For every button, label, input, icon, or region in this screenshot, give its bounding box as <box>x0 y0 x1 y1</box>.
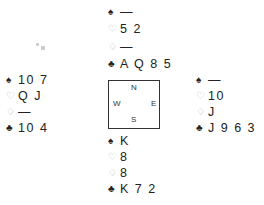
north-clubs: ♣A Q 8 5 <box>108 56 172 74</box>
diamond-icon: ♢ <box>6 104 18 120</box>
compass-east: E <box>151 99 156 108</box>
compass-south: S <box>131 115 136 124</box>
spade-icon: ♠ <box>6 72 18 88</box>
east-spades: ♠— <box>196 72 256 88</box>
south-hand: ♠K ♡8 ♢8 ♣K 7 2 <box>108 133 157 197</box>
heart-icon: ♡ <box>108 149 120 165</box>
north-hand: ♠— ♡5 2 ♢— ♣A Q 8 5 <box>108 3 172 73</box>
west-hearts: ♡Q J <box>6 88 48 104</box>
club-icon: ♣ <box>6 120 18 136</box>
heart-icon: ♡ <box>108 21 120 37</box>
south-spades: ♠K <box>108 133 157 149</box>
east-diamonds: ♢J <box>196 104 256 120</box>
heart-icon: ♡ <box>196 88 208 104</box>
spade-icon: ♠ <box>108 4 120 20</box>
diamond-icon: ♢ <box>196 104 208 120</box>
compass-box: N W E S <box>108 80 160 129</box>
west-diamonds: ♢— <box>6 104 48 120</box>
east-hearts: ♡10 <box>196 88 256 104</box>
heart-icon: ♡ <box>6 88 18 104</box>
artifact-smudge <box>36 43 50 51</box>
spade-icon: ♠ <box>108 133 120 149</box>
club-icon: ♣ <box>196 120 208 136</box>
south-hearts: ♡8 <box>108 149 157 165</box>
compass-west: W <box>113 99 121 108</box>
club-icon: ♣ <box>108 181 120 197</box>
south-diamonds: ♢8 <box>108 165 157 181</box>
west-hand: ♠10 7 ♡Q J ♢— ♣10 4 <box>6 72 48 136</box>
compass-north: N <box>131 83 137 92</box>
west-spades: ♠10 7 <box>6 72 48 88</box>
north-diamonds: ♢— <box>108 38 172 56</box>
club-icon: ♣ <box>108 56 120 72</box>
spade-icon: ♠ <box>196 72 208 88</box>
east-hand: ♠— ♡10 ♢J ♣J 9 6 3 <box>196 72 256 136</box>
south-clubs: ♣K 7 2 <box>108 181 157 197</box>
diamond-icon: ♢ <box>108 165 120 181</box>
east-clubs: ♣J 9 6 3 <box>196 120 256 136</box>
diamond-icon: ♢ <box>108 39 120 55</box>
west-clubs: ♣10 4 <box>6 120 48 136</box>
north-spades: ♠— <box>108 3 172 21</box>
north-hearts: ♡5 2 <box>108 21 172 39</box>
